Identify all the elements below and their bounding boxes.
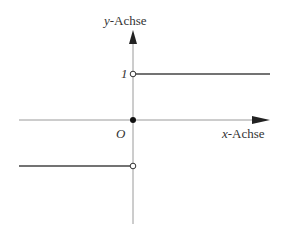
x-axis-label: x-Achse: [221, 126, 265, 141]
y-axis-label: y-Achse: [102, 13, 147, 28]
x-axis-arrow-icon: [252, 116, 270, 124]
step-function-plot: y-Achse x-Achse O 1: [0, 0, 285, 234]
lower-open-point: [130, 163, 136, 169]
origin-filled-point: [130, 117, 136, 123]
y-axis-arrow-icon: [129, 30, 137, 44]
upper-open-point: [130, 71, 136, 77]
y-tick-label-one: 1: [121, 66, 128, 81]
origin-label: O: [116, 126, 126, 141]
